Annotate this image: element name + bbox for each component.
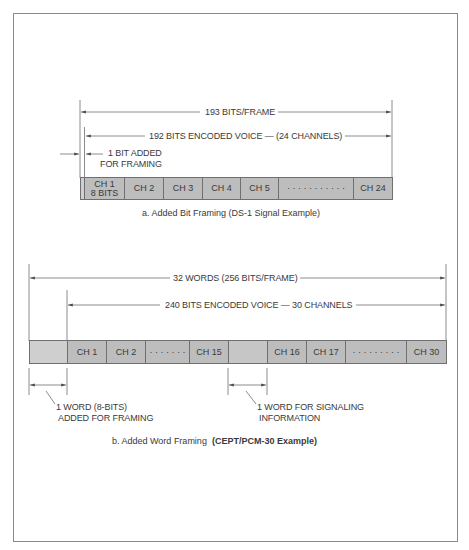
total-words-label-b: 32 WORDS (256 BITS/FRAME) [171,273,300,283]
framing-word-note-line1: 1 WORD (8-BITS) [56,402,127,412]
channel-cell-ch30: CH 30 [407,341,446,363]
channel-ellipsis: · · · · · · · [146,341,190,363]
ds1-frame-bar: CH 1 8 BITS CH 2 CH 3 CH 4 CH 5 · · · · … [80,177,393,200]
channel-cell-ch3: CH 3 [164,178,203,199]
signaling-word-slot [229,341,268,363]
framing-bit-note-line2: FOR FRAMING [100,159,162,169]
channel-cell-ch1: CH 1 8 BITS [85,178,125,199]
signaling-word-note-line2: INFORMATION [259,413,320,423]
voice-bits-label-a: 192 BITS ENCODED VOICE — (24 CHANNELS) [147,131,344,141]
channel-cell-ch5: CH 5 [241,178,279,199]
channel-cell-ch1: CH 1 [68,341,107,363]
caption-part-b-bold: (CEPT/PCM-30 Example) [212,436,317,446]
channel-cell-ch24: CH 24 [354,178,392,199]
caption-part-a: a. Added Bit Framing (DS-1 Signal Exampl… [142,208,320,218]
channel-cell-ch2: CH 2 [107,341,146,363]
channel-cell-ch2: CH 2 [125,178,164,199]
framing-word-note-line2: ADDED FOR FRAMING [58,413,153,423]
channel-ellipsis: · · · · · · · · · · · [279,178,354,199]
total-bits-label-a: 193 BITS/FRAME [203,107,277,117]
caption-part-b-plain: b. Added Word Framing [112,436,207,446]
cept-frame-bar: CH 1 CH 2 · · · · · · · CH 15 CH 16 CH 1… [29,340,447,364]
caption-part-b: b. Added Word Framing (CEPT/PCM-30 Examp… [112,436,317,446]
framing-word-slot [30,341,68,363]
channel-cell-ch17: CH 17 [307,341,346,363]
channel-cell-ch4: CH 4 [203,178,241,199]
channel-ellipsis: · · · · · · · · · [346,341,407,363]
voice-bits-label-b: 240 BITS ENCODED VOICE — 30 CHANNELS [163,300,354,310]
channel-cell-ch16: CH 16 [268,341,307,363]
framing-bit-note-line1: 1 BIT ADDED [108,148,162,158]
channel-cell-ch15: CH 15 [190,341,229,363]
channel-sublabel: 8 BITS [91,189,119,198]
signaling-word-note-line1: 1 WORD FOR SIGNALING [257,402,364,412]
